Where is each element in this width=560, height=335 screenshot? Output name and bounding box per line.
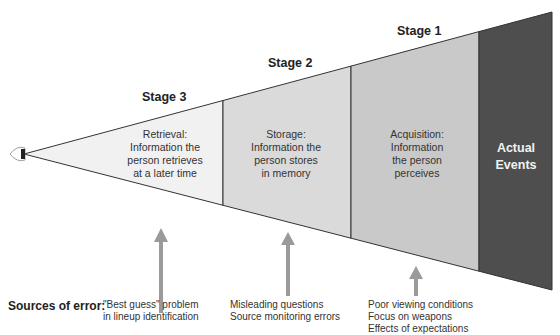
stage3-description: Retrieval: Information the person retrie… xyxy=(124,128,206,180)
stage1-description: Acquisition: Information the person perc… xyxy=(380,128,454,180)
stage1-label: Acquisition: xyxy=(380,128,454,141)
stage3-desc-line: Information the xyxy=(124,141,206,154)
stage3-title: Stage 3 xyxy=(142,90,186,104)
actual-events-label: Actual Events xyxy=(482,140,550,174)
stage1-desc-line: perceives xyxy=(380,167,454,180)
stage3-desc-line: at a later time xyxy=(124,167,206,180)
sources-of-error-title: Sources of error: xyxy=(8,299,105,313)
stage1-title: Stage 1 xyxy=(397,24,441,38)
stage2-desc-line: in memory xyxy=(240,167,332,180)
eye-icon xyxy=(10,147,25,161)
stage2-desc-line: person stores xyxy=(240,154,332,167)
stage2-label: Storage: xyxy=(240,128,332,141)
error-item: Source monitoring errors xyxy=(230,311,340,323)
stage1-desc-line: Information xyxy=(380,141,454,154)
actual-events-line: Events xyxy=(482,157,550,174)
stage2-error-sources: Misleading questions Source monitoring e… xyxy=(230,299,340,323)
actual-events-line: Actual xyxy=(482,140,550,157)
error-item: Focus on weapons xyxy=(368,311,473,323)
stage2-title: Stage 2 xyxy=(268,56,312,70)
arrow-stage1 xyxy=(409,266,423,296)
arrow-stage2 xyxy=(281,232,295,296)
error-item: in lineup identification xyxy=(103,311,199,323)
stage2-description: Storage: Information the person stores i… xyxy=(240,128,332,180)
stage3-label: Retrieval: xyxy=(124,128,206,141)
stage1-desc-line: the person xyxy=(380,154,454,167)
stage3-error-sources: "Best guess" problem in lineup identific… xyxy=(103,299,199,323)
error-item: Effects of expectations xyxy=(368,323,473,335)
error-item: Misleading questions xyxy=(230,299,340,311)
error-item: Poor viewing conditions xyxy=(368,299,473,311)
error-item: "Best guess" problem xyxy=(103,299,199,311)
stage2-desc-line: Information the xyxy=(240,141,332,154)
stage3-desc-line: person retrieves xyxy=(124,154,206,167)
stage1-error-sources: Poor viewing conditions Focus on weapons… xyxy=(368,299,473,335)
